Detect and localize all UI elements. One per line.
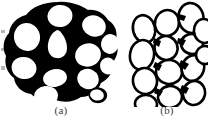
cellular-microstructure-thick-wall-icon (0, 0, 122, 107)
figure-panel-b (126, 0, 208, 107)
figure-panel-a (0, 0, 122, 107)
cell (151, 33, 181, 63)
cell (128, 38, 157, 72)
panel-b-caption: (b) (126, 104, 208, 117)
cell (196, 46, 208, 64)
cell (155, 59, 183, 86)
cellular-microstructure-thin-wall-icon (126, 0, 208, 107)
cell (152, 7, 182, 39)
panel-a-caption: (a) (0, 104, 122, 117)
figure-page: (a) (0, 0, 208, 133)
